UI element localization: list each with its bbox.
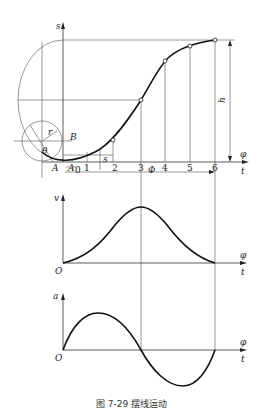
a0-subscript: 0 bbox=[75, 165, 81, 175]
t-label-2: t bbox=[241, 267, 245, 277]
figure-caption: 图 7-29 摆线运动 bbox=[0, 397, 263, 410]
a-origin-label: O bbox=[55, 353, 63, 363]
curve-point-6 bbox=[213, 38, 217, 42]
a0-label: A bbox=[67, 163, 75, 173]
t-label-1: t bbox=[241, 166, 245, 176]
tick-6: 6 bbox=[212, 163, 218, 173]
curve-point-4 bbox=[163, 59, 167, 63]
tick-1: 1 bbox=[84, 163, 90, 173]
curve-point-5 bbox=[188, 44, 192, 48]
s-axis-label: s bbox=[56, 21, 61, 31]
a-point-label: A bbox=[51, 163, 59, 173]
phi-axis-arrow-icon bbox=[242, 160, 249, 164]
v-axis-label: v bbox=[54, 193, 59, 203]
curve-point-3 bbox=[139, 98, 143, 102]
theta-label: θ bbox=[42, 146, 48, 156]
a-phi-arrow-icon bbox=[240, 348, 247, 352]
s-axis-arrow-icon bbox=[61, 22, 65, 29]
tick-3: 3 bbox=[138, 163, 144, 173]
phi-dim-label: Φ bbox=[148, 165, 155, 175]
velocity-curve bbox=[63, 207, 215, 263]
t-label-3: t bbox=[241, 354, 245, 364]
h-label: h bbox=[217, 97, 227, 103]
v-axis-arrow-icon bbox=[61, 194, 65, 201]
tick-2: 2 bbox=[112, 163, 118, 173]
r-label: r bbox=[48, 127, 53, 137]
tick-5: 5 bbox=[187, 163, 193, 173]
phi-label-3: φ bbox=[240, 337, 247, 347]
b-label: B bbox=[69, 132, 77, 142]
tick-4: 4 bbox=[162, 163, 168, 173]
cycloidal-motion-diagram: s h r B θ A A 0 s 1 2 3 Φ 4 5 6 φ t v O … bbox=[0, 0, 263, 418]
phi-label-2: φ bbox=[240, 250, 247, 260]
v-origin-label: O bbox=[55, 266, 63, 276]
curve-point-2 bbox=[111, 138, 115, 142]
s-small-label: s bbox=[103, 154, 108, 164]
a-axis-arrow-icon bbox=[61, 293, 65, 300]
h-arrow-bottom-icon bbox=[228, 156, 232, 162]
acceleration-curve bbox=[63, 313, 215, 386]
a-axis-label: a bbox=[53, 291, 58, 301]
h-arrow-top-icon bbox=[228, 40, 232, 46]
v-phi-arrow-icon bbox=[240, 261, 247, 265]
phi-label-1: φ bbox=[240, 149, 247, 159]
